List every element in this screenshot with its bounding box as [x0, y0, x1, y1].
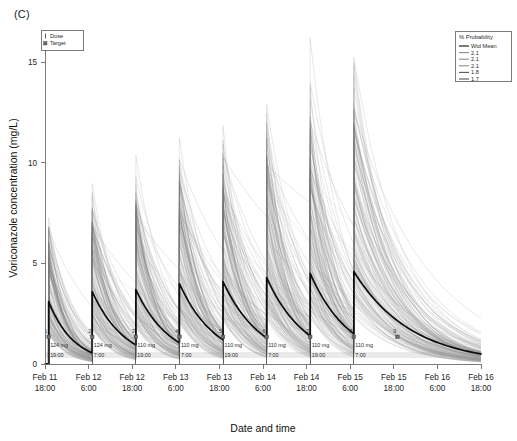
x-tick-date: Feb 14 [250, 373, 276, 382]
x-tick-date: Feb 13 [163, 373, 189, 382]
x-tick-date: Feb 16 [425, 373, 451, 382]
x-tick-time: 6:00 [342, 384, 358, 393]
target-marker [221, 335, 225, 339]
probability-legend-label: Wtd Mean [471, 43, 497, 49]
pk-concentration-time-chart: 1124 mg19:002124 mg7:003110 mg19:004110 … [0, 0, 517, 441]
probability-legend-label: 2.1 [471, 50, 479, 56]
x-tick-time: 18:00 [209, 384, 230, 393]
dose-time-label: 7:00 [94, 352, 105, 358]
y-axis: 051015 Voriconazole concentration (mg/L) [7, 32, 46, 369]
dose-index-label: 4 [175, 328, 178, 334]
target-marker [134, 335, 138, 339]
x-tick-date: Feb 15 [337, 373, 363, 382]
x-axis-title: Date and time [230, 422, 296, 434]
dose-amount-label: 124 mg [50, 342, 68, 348]
baseline-haze [46, 352, 446, 358]
probability-legend[interactable]: % Probability Wtd Mean2.12.12.11.81.7 [455, 31, 511, 82]
x-tick-date: Feb 13 [207, 373, 233, 382]
x-tick-date: Feb 12 [76, 373, 102, 382]
chart-root: (C) 1124 mg19:002124 mg7:003110 mg19:004… [0, 0, 517, 441]
target-square-icon [44, 42, 47, 45]
target-marker [47, 335, 51, 339]
dose-amount-label: 110 mg [312, 342, 330, 348]
x-tick-date: Feb 11 [33, 373, 58, 382]
y-tick-label: 10 [28, 159, 38, 168]
x-tick-time: 18:00 [122, 384, 143, 393]
dose-time-label: 7:00 [268, 352, 279, 358]
dose-amount-label: 110 mg [268, 342, 286, 348]
dose-amount-label: 110 mg [137, 342, 155, 348]
target-marker [396, 335, 400, 339]
x-tick-time: 6:00 [81, 384, 97, 393]
dose-index-label: 5 [219, 328, 222, 334]
x-axis: Feb 1118:00Feb 126:00Feb 1218:00Feb 136:… [33, 364, 495, 434]
dose-time-label: 19:00 [312, 352, 326, 358]
x-tick-date: Feb 14 [294, 373, 320, 382]
x-tick-date: Feb 16 [468, 373, 494, 382]
dose-index-label: 1 [45, 328, 48, 334]
x-tick-date: Feb 15 [381, 373, 407, 382]
dose-time-label: 7:00 [181, 352, 192, 358]
dose-amount-label: 110 mg [355, 342, 373, 348]
dose-amount-label: 124 mg [94, 342, 112, 348]
x-tick-time: 6:00 [255, 384, 271, 393]
y-tick-label: 15 [28, 58, 38, 67]
y-axis-title: Voriconazole concentration (mg/L) [7, 118, 19, 277]
marker-legend[interactable]: Dose Target [41, 30, 83, 50]
x-tick-time: 6:00 [429, 384, 445, 393]
x-tick-time: 18:00 [296, 384, 317, 393]
legend-label-dose: Dose [50, 33, 63, 39]
probability-legend-label: 1.7 [471, 76, 479, 82]
dose-index-label: 9 [393, 328, 396, 334]
probability-legend-label: 2.1 [471, 56, 479, 62]
dose-index-label: 7 [306, 328, 309, 334]
probability-legend-label: 2.1 [471, 63, 479, 69]
legend-label-target: Target [50, 40, 66, 46]
dose-time-label: 19:00 [137, 352, 151, 358]
target-marker [90, 335, 94, 339]
x-tick-time: 18:00 [471, 384, 492, 393]
probability-legend-title: % Probability [459, 34, 493, 40]
target-marker [352, 335, 356, 339]
x-tick-time: 18:00 [384, 384, 405, 393]
dose-time-label: 19:00 [225, 352, 239, 358]
dose-index-label: 3 [132, 328, 135, 334]
dose-amount-label: 110 mg [225, 342, 243, 348]
probability-legend-label: 1.8 [471, 69, 479, 75]
target-marker [265, 335, 269, 339]
dose-time-label: 7:00 [355, 352, 366, 358]
target-marker [308, 335, 312, 339]
y-tick-label: 0 [32, 360, 37, 369]
dose-index-label: 8 [350, 328, 353, 334]
y-tick-label: 5 [32, 259, 37, 268]
dose-amount-label: 110 mg [181, 342, 199, 348]
dose-index-label: 6 [263, 328, 266, 334]
dose-time-label: 19:00 [50, 352, 64, 358]
target-marker [178, 335, 182, 339]
x-tick-time: 6:00 [168, 384, 184, 393]
x-tick-time: 18:00 [35, 384, 56, 393]
dose-index-label: 2 [88, 328, 91, 334]
x-tick-date: Feb 12 [119, 373, 145, 382]
